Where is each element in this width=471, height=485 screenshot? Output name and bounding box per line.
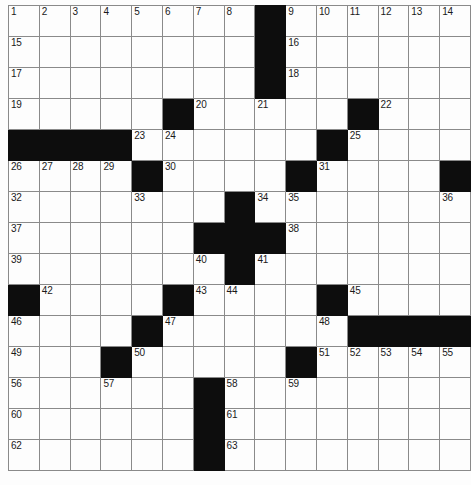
crossword-cell[interactable]: 37 [9,223,40,254]
crossword-cell[interactable]: 50 [132,347,163,378]
crossword-cell[interactable]: 7 [193,6,224,37]
crossword-cell[interactable] [286,316,317,347]
crossword-cell[interactable]: 20 [193,99,224,130]
crossword-cell[interactable] [378,378,409,409]
crossword-cell[interactable] [224,99,255,130]
crossword-cell[interactable] [39,440,70,471]
crossword-cell[interactable] [162,409,193,440]
crossword-cell[interactable] [440,254,471,285]
crossword-cell[interactable]: 4 [101,6,132,37]
crossword-cell[interactable]: 29 [101,161,132,192]
crossword-cell[interactable] [409,440,440,471]
crossword-cell[interactable] [162,378,193,409]
crossword-cell[interactable] [409,254,440,285]
crossword-cell[interactable] [255,161,286,192]
crossword-cell[interactable] [440,378,471,409]
crossword-cell[interactable]: 28 [70,161,101,192]
crossword-cell[interactable]: 48 [316,316,347,347]
crossword-cell[interactable] [132,223,163,254]
crossword-cell[interactable] [409,161,440,192]
crossword-cell[interactable] [101,285,132,316]
crossword-cell[interactable] [347,378,378,409]
crossword-cell[interactable]: 31 [316,161,347,192]
crossword-cell[interactable] [39,99,70,130]
crossword-cell[interactable]: 62 [9,440,40,471]
crossword-cell[interactable]: 17 [9,68,40,99]
crossword-cell[interactable] [316,192,347,223]
crossword-cell[interactable]: 40 [193,254,224,285]
crossword-cell[interactable]: 30 [162,161,193,192]
crossword-cell[interactable]: 18 [286,68,317,99]
crossword-cell[interactable] [70,223,101,254]
crossword-cell[interactable] [409,130,440,161]
crossword-cell[interactable] [39,254,70,285]
crossword-cell[interactable] [409,378,440,409]
crossword-cell[interactable] [378,440,409,471]
crossword-cell[interactable]: 25 [347,130,378,161]
crossword-cell[interactable] [193,316,224,347]
crossword-cell[interactable]: 35 [286,192,317,223]
crossword-cell[interactable] [286,254,317,285]
crossword-cell[interactable]: 36 [440,192,471,223]
crossword-cell[interactable]: 11 [347,6,378,37]
crossword-cell[interactable] [440,68,471,99]
crossword-cell[interactable]: 21 [255,99,286,130]
crossword-cell[interactable]: 33 [132,192,163,223]
crossword-cell[interactable] [378,161,409,192]
crossword-cell[interactable] [409,285,440,316]
crossword-cell[interactable] [286,99,317,130]
crossword-cell[interactable] [132,285,163,316]
crossword-cell[interactable] [347,192,378,223]
crossword-cell[interactable]: 53 [378,347,409,378]
crossword-cell[interactable] [132,440,163,471]
crossword-cell[interactable] [255,409,286,440]
crossword-cell[interactable]: 23 [132,130,163,161]
crossword-cell[interactable]: 61 [224,409,255,440]
crossword-cell[interactable] [162,37,193,68]
crossword-cell[interactable]: 13 [409,6,440,37]
crossword-cell[interactable] [378,285,409,316]
crossword-cell[interactable] [193,161,224,192]
crossword-cell[interactable] [255,440,286,471]
crossword-cell[interactable] [378,223,409,254]
crossword-cell[interactable] [224,347,255,378]
crossword-cell[interactable] [378,37,409,68]
crossword-cell[interactable]: 49 [9,347,40,378]
crossword-cell[interactable] [255,347,286,378]
crossword-cell[interactable]: 58 [224,378,255,409]
crossword-cell[interactable]: 9 [286,6,317,37]
crossword-cell[interactable]: 1 [9,6,40,37]
crossword-cell[interactable]: 26 [9,161,40,192]
crossword-cell[interactable]: 59 [286,378,317,409]
crossword-cell[interactable] [193,37,224,68]
crossword-cell[interactable]: 43 [193,285,224,316]
crossword-cell[interactable] [39,223,70,254]
crossword-cell[interactable] [440,37,471,68]
crossword-cell[interactable] [224,37,255,68]
crossword-cell[interactable]: 8 [224,6,255,37]
crossword-cell[interactable] [440,223,471,254]
crossword-cell[interactable]: 14 [440,6,471,37]
crossword-cell[interactable] [440,130,471,161]
crossword-cell[interactable]: 15 [9,37,40,68]
crossword-cell[interactable] [39,316,70,347]
crossword-cell[interactable] [101,440,132,471]
crossword-cell[interactable] [70,37,101,68]
crossword-cell[interactable] [316,440,347,471]
crossword-cell[interactable] [101,37,132,68]
crossword-cell[interactable] [440,285,471,316]
crossword-cell[interactable]: 10 [316,6,347,37]
crossword-cell[interactable] [101,192,132,223]
crossword-cell[interactable] [255,378,286,409]
crossword-cell[interactable]: 39 [9,254,40,285]
crossword-cell[interactable] [286,440,317,471]
crossword-cell[interactable] [316,254,347,285]
crossword-cell[interactable] [101,254,132,285]
crossword-cell[interactable] [101,99,132,130]
crossword-cell[interactable] [316,223,347,254]
crossword-cell[interactable]: 52 [347,347,378,378]
crossword-cell[interactable]: 63 [224,440,255,471]
crossword-cell[interactable] [378,68,409,99]
crossword-cell[interactable] [224,161,255,192]
crossword-cell[interactable]: 45 [347,285,378,316]
